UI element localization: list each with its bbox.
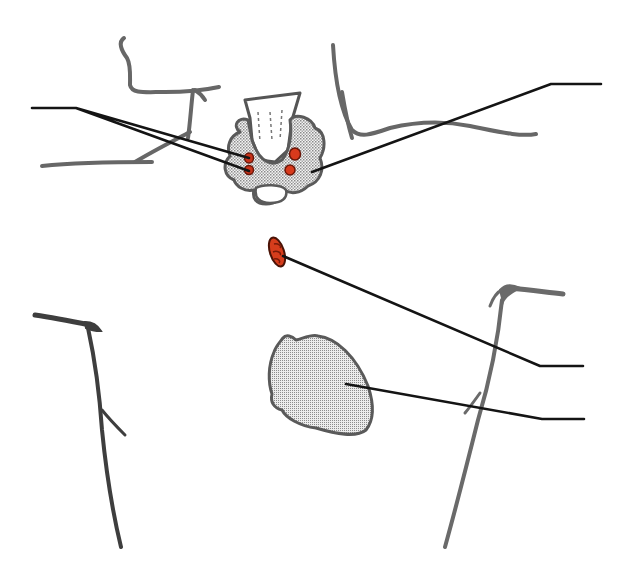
- shoulder-right: [445, 285, 563, 547]
- leader-thyroid: [312, 84, 601, 172]
- neck-curve-right: [333, 45, 536, 138]
- clavicle-left-upper: [42, 132, 190, 166]
- mandible-left: [121, 38, 219, 138]
- anatomy-diagram: [0, 0, 627, 582]
- parathyroid-right-upper: [290, 148, 301, 160]
- shoulder-left: [35, 315, 125, 547]
- ectopic-parathyroid-mediastinal: [266, 236, 289, 269]
- parathyroid-right-lower: [285, 165, 295, 175]
